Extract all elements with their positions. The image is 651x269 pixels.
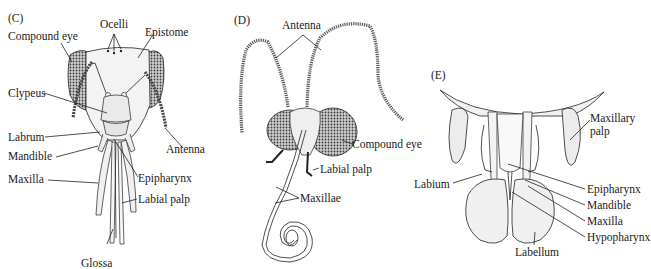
label-epipharynx-c: Epipharynx [138,172,192,184]
label-labial-palp-c: Labial palp [138,193,190,205]
label-compound-eye-c: Compound eye [8,30,78,42]
label-maxillary-palp-line2: palp [590,125,610,137]
mouthparts-illustration [0,0,651,269]
panel-e-letter: (E) [431,69,446,81]
label-labial-palp-d: Labial palp [320,163,372,175]
label-antenna-c: Antenna [166,143,205,155]
label-ocelli: Ocelli [100,18,128,30]
panel-c-drawing [68,47,166,244]
label-compound-eye-d: Compound eye [352,138,422,150]
label-maxillary-palp-line1: Maxillary [590,112,635,124]
panel-d-letter: (D) [234,14,250,26]
label-maxilla-e: Maxilla [587,215,623,227]
label-labrum: Labrum [8,131,44,143]
label-maxillae: Maxillae [300,192,341,204]
label-epistome: Epistome [145,26,188,38]
label-hypopharynx: Hypopharynx [587,231,650,243]
label-maxilla-c: Maxilla [8,173,44,185]
label-labium: Labium [414,178,450,190]
label-glossa: Glossa [81,257,112,269]
label-labellum: Labellum [515,246,559,258]
label-antenna-d: Antenna [282,19,321,31]
label-mandible-c: Mandible [8,150,52,162]
label-clypeus: Clypeus [8,87,46,99]
label-mandible-e: Mandible [587,199,631,211]
panel-e-drawing [440,90,604,243]
label-epipharynx-e: Epipharynx [587,183,641,195]
panel-c-letter: (C) [8,12,23,24]
